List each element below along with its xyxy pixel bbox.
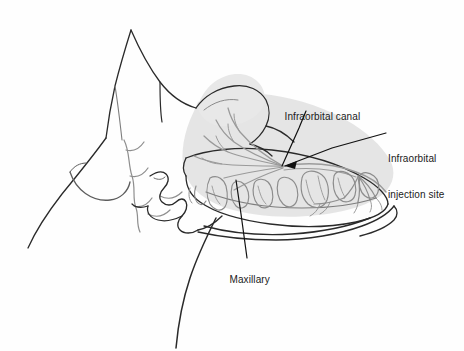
anatomy-figure: Infraorbital canal Infraorbital injectio… [0,0,464,351]
label-maxillary-text: Maxillary [230,274,270,285]
label-injection-site-line1: Infraorbital [388,153,444,165]
neck-outline [176,218,216,348]
label-infraorbital-canal: Infraorbital canal [273,99,360,135]
head-profile [28,30,196,248]
label-infraorbital-injection-site: Infraorbital injection site [388,129,444,225]
label-maxillary: Maxillary [218,262,270,298]
eye [70,163,130,200]
label-injection-site-line2: injection site [388,189,444,201]
label-infraorbital-canal-text: Infraorbital canal [285,111,361,122]
